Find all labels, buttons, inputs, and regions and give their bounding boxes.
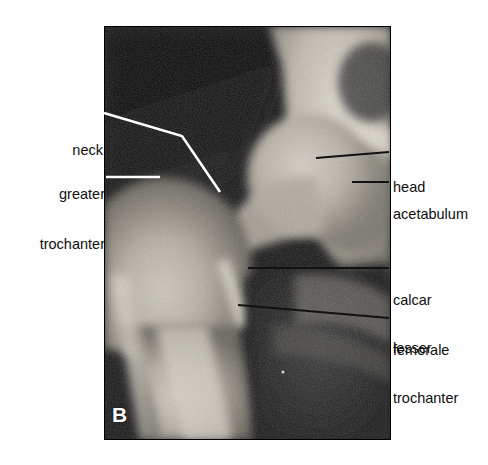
xray-image — [104, 26, 391, 440]
film-tone — [104, 26, 391, 440]
label-lesser-trochanter-line2: trochanter — [393, 390, 458, 407]
label-lesser-trochanter: lesser trochanter — [393, 307, 458, 439]
label-greater-trochanter: greater trochanter — [40, 153, 105, 285]
label-greater-trochanter-line2: trochanter — [40, 236, 105, 253]
label-acetabulum-line1: acetabulum — [393, 206, 468, 223]
label-acetabulum: acetabulum — [393, 173, 468, 256]
label-greater-trochanter-line1: greater — [40, 186, 105, 203]
label-lesser-trochanter-line1: lesser — [393, 340, 458, 357]
xray-canvas — [104, 26, 391, 440]
radiograph-figure: B neck greater trochanter head acetabulu… — [0, 0, 488, 465]
panel-letter: B — [112, 404, 128, 425]
